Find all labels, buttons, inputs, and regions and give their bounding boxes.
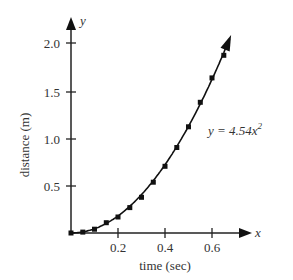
data-point [69,231,74,236]
data-point [116,215,121,220]
data-points [69,35,232,236]
data-point [127,205,132,210]
x-tick-label: 0.4 [157,240,174,255]
x-axis-title: time (sec) [139,258,191,273]
y-tick-label: 1.5 [44,85,60,100]
data-point [198,100,203,105]
curve-arrow-icon [221,35,232,52]
x-tick-label: 0.6 [204,240,221,255]
data-point [80,230,85,235]
data-point [163,164,168,169]
x-axis-arrow-icon [239,228,252,238]
data-point [139,195,144,200]
equation-label: y = 4.54x2 [206,121,263,138]
fit-curve [71,39,230,233]
x-tick-label: 0.2 [110,240,126,255]
data-point [221,53,226,58]
data-point [92,227,97,232]
y-axis-symbol: y [78,13,86,28]
y-tick-label: 0.5 [44,179,60,194]
data-point [151,180,156,185]
data-point [210,75,215,80]
data-point [186,124,191,129]
x-ticks: 0.2 0.4 0.6 [110,228,221,255]
y-tick-label: 2.0 [44,36,60,51]
chart: 0.5 1.0 1.5 2.0 0.2 0.4 0.6 y x time (se… [0,0,293,280]
data-point [174,145,179,150]
y-tick-label: 1.0 [44,132,60,147]
x-axis-symbol: x [254,225,261,240]
data-point [104,220,109,225]
y-axis-arrow-icon [66,17,76,30]
y-axis-title: distance (m) [17,113,32,178]
